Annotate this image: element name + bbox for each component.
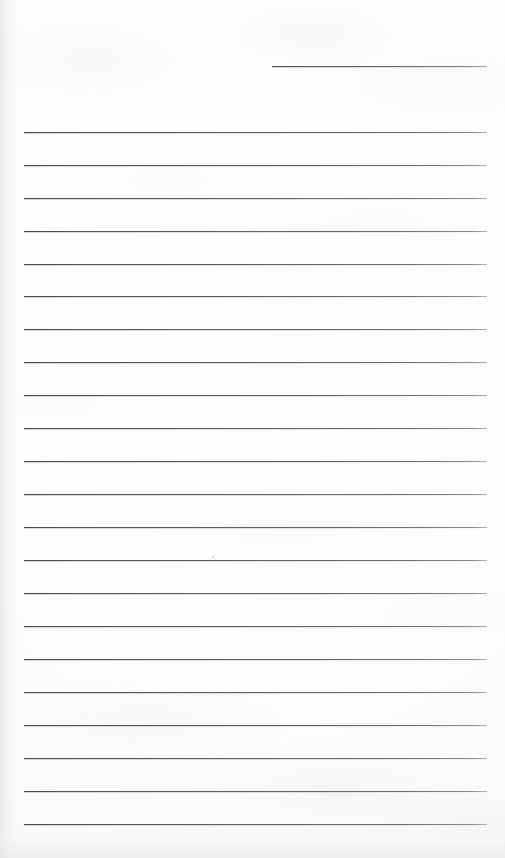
scan-left-edge-shadow [0,0,26,858]
paper-illumination [0,0,505,858]
scan-bottom-edge-shadow [0,818,505,858]
scanned-page [0,0,505,858]
